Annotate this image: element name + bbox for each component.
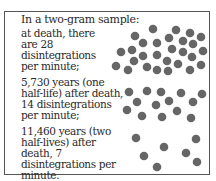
atom-dot	[128, 46, 137, 55]
atom-dot	[182, 149, 191, 158]
atom-dot	[143, 87, 152, 96]
atom-dot	[174, 60, 183, 69]
atom-dot	[123, 106, 132, 115]
atom-dot	[117, 48, 126, 57]
atom-dot	[197, 61, 206, 70]
atom-dot	[158, 113, 167, 122]
atom-dot	[197, 33, 206, 42]
atom-dot	[172, 26, 181, 35]
atom-dot	[139, 52, 148, 61]
atom-dot	[179, 37, 188, 46]
atom-dot	[165, 34, 174, 43]
atom-dot	[131, 32, 140, 41]
atom-dot	[160, 143, 169, 152]
atom-dot	[173, 107, 182, 116]
atom-dot	[153, 51, 162, 60]
atom-dot	[189, 40, 198, 49]
atom-dot	[152, 101, 161, 110]
atom-dot	[164, 67, 173, 76]
atom-dot	[163, 57, 172, 66]
atom-dot	[153, 163, 162, 172]
atom-dot	[130, 57, 139, 66]
atom-dot	[186, 29, 195, 38]
atom-dot	[179, 48, 188, 57]
atom-dot	[153, 39, 162, 48]
atom-dot	[140, 152, 149, 161]
atom-dot	[133, 98, 142, 107]
atom-dot	[138, 112, 147, 121]
atom-dot	[193, 158, 202, 167]
atom-dot	[187, 114, 196, 123]
atom-dot	[132, 134, 141, 143]
atom-dot	[192, 135, 201, 144]
atom-dot	[165, 97, 174, 106]
atom-dot	[177, 89, 186, 98]
dots-group-two-half-lives	[132, 134, 202, 172]
atom-dot	[157, 88, 166, 97]
atom-dot	[139, 39, 148, 48]
atom-dot	[124, 66, 133, 75]
dots-group-one-half-life	[123, 87, 207, 123]
dots-group-at-death	[112, 25, 208, 76]
atom-dot	[168, 45, 177, 54]
atom-dot	[153, 66, 162, 75]
atom-dot	[189, 98, 198, 107]
dots-illustration	[0, 0, 216, 181]
atom-dot	[199, 47, 208, 56]
atom-dot	[198, 90, 207, 99]
atom-dot	[112, 62, 121, 71]
atom-dot	[149, 25, 158, 34]
atom-dot	[143, 63, 152, 72]
atom-dot	[125, 88, 134, 97]
atom-dot	[188, 53, 197, 62]
atom-dot	[186, 66, 195, 75]
